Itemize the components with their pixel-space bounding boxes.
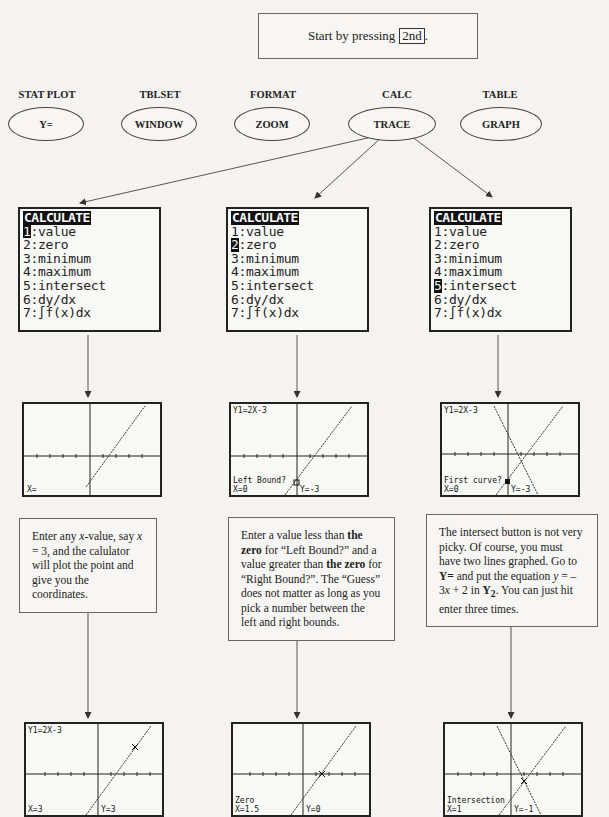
graph-key[interactable]: GRAPH [460,107,542,141]
svg-text:Y1=2X-3: Y1=2X-3 [28,726,62,735]
tblset-label: TBLSET [115,89,205,100]
calculate-menu-intersect: CALCULATE 1:value 2:zero 3:minimum 4:max… [429,207,572,332]
intro-text: Start by pressing [308,28,395,44]
menu-title: CALCULATE [23,211,91,225]
svg-text:Zero: Zero [235,796,254,805]
graph-screen-value-result: Y1=2X-3 X=3 Y=3 [24,722,164,817]
menu-item-zero[interactable]: 2:zero [23,238,156,252]
svg-text:X=: X= [27,485,37,494]
menu-item-zero[interactable]: 2:zero [434,238,567,252]
window-key[interactable]: WINDOW [121,107,197,141]
intro-box: Start by pressing 2nd . [258,13,478,59]
menu-item-integral[interactable]: 7:∫f(x)dx [231,306,364,320]
menu-item-value[interactable]: 1:value [231,225,364,239]
menu-item-zero[interactable]: 2:zero [231,238,364,252]
note-intersect: The intersect button is not very picky. … [426,514,598,627]
zoom-key[interactable]: ZOOM [234,107,310,141]
menu-item-minimum[interactable]: 3:minimum [23,252,156,266]
calculate-menu-value: CALCULATE 1:value 2:zero 3:minimum 4:max… [18,207,161,332]
graph-screen-intersect-result: Intersection X=1 Y=-1 [443,722,583,817]
stat-plot-label: STAT PLOT [2,89,92,100]
menu-item-intersect[interactable]: 5:intersect [23,279,156,293]
svg-text:Y=3: Y=3 [101,805,116,814]
menu-item-dydx[interactable]: 6:dy/dx [434,293,567,307]
menu-item-integral[interactable]: 7:∫f(x)dx [23,306,156,320]
menu-title: CALCULATE [434,211,502,225]
graph-screen-zero-result: Zero X=1.5 Y=0 [231,722,371,817]
note-zero: Enter a value less than the zero for “Le… [228,517,395,641]
table-label: TABLE [455,89,545,100]
svg-text:X=1: X=1 [447,805,462,814]
graph-screen-first-curve: Y1=2X-3 First curve? X=0 Y=-3 [440,402,580,497]
menu-title: CALCULATE [231,211,299,225]
menu-item-dydx[interactable]: 6:dy/dx [23,293,156,307]
svg-text:Y=-1: Y=-1 [514,805,533,814]
calc-label: CALC [352,89,442,100]
menu-item-value[interactable]: 1:value [434,225,567,239]
svg-text:Y=0: Y=0 [306,805,321,814]
trace-key[interactable]: TRACE [348,107,436,141]
menu-item-dydx[interactable]: 6:dy/dx [231,293,364,307]
graph-screen-left-bound: Y1=2X-3 Left Bound? X=0 Y=-3 [229,402,369,497]
svg-text:Y1=2X-3: Y1=2X-3 [444,406,478,415]
menu-item-maximum[interactable]: 4:maximum [23,265,156,279]
calculate-menu-zero: CALCULATE 1:value 2:zero 3:minimum 4:max… [226,207,369,332]
menu-item-minimum[interactable]: 3:minimum [231,252,364,266]
menu-item-maximum[interactable]: 4:maximum [231,265,364,279]
menu-item-intersect[interactable]: 5:intersect [434,279,567,293]
y-equals-key[interactable]: Y= [8,107,84,141]
menu-item-integral[interactable]: 7:∫f(x)dx [434,306,567,320]
svg-text:First curve?: First curve? [444,476,502,485]
graph-screen-value-prompt: X= [22,402,162,497]
svg-text:Intersection: Intersection [447,796,505,805]
svg-text:X=0: X=0 [444,485,459,494]
menu-item-minimum[interactable]: 3:minimum [434,252,567,266]
svg-text:Y1=2X-3: Y1=2X-3 [233,406,267,415]
note-value: Enter any x-value, say x = 3, and the ca… [19,518,157,613]
svg-text:X=1.5: X=1.5 [235,805,259,814]
svg-text:Left Bound?: Left Bound? [233,476,286,485]
svg-text:X=3: X=3 [28,805,43,814]
menu-item-value[interactable]: 1:value [23,225,156,239]
format-label: FORMAT [228,89,318,100]
menu-item-intersect[interactable]: 5:intersect [231,279,364,293]
second-key: 2nd [399,28,425,44]
svg-text:Y=-3: Y=-3 [300,485,319,494]
menu-item-maximum[interactable]: 4:maximum [434,265,567,279]
svg-text:X=0: X=0 [233,485,248,494]
svg-text:Y=-3: Y=-3 [511,485,530,494]
